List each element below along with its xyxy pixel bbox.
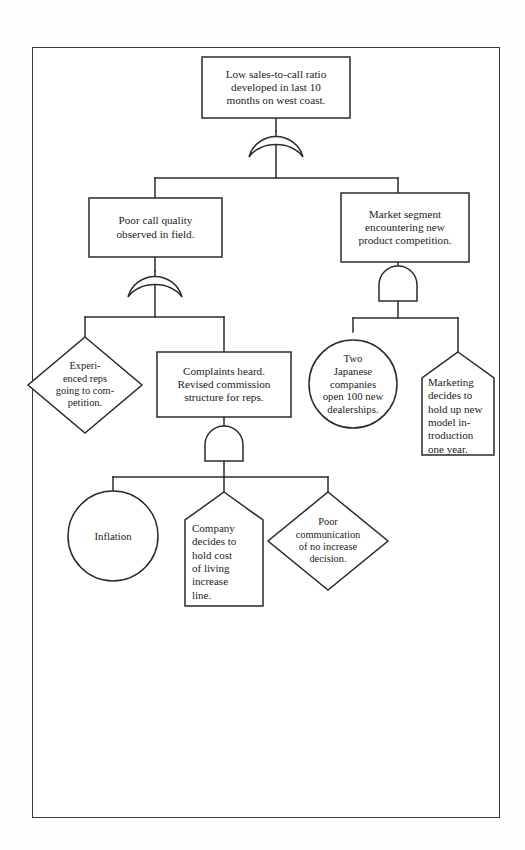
fault-tree-page: Low sales-to-call ratio developed in las… <box>0 0 525 850</box>
diagram-frame <box>32 47 500 818</box>
